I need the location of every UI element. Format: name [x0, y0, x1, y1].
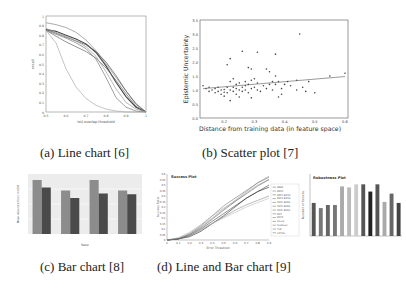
- x-tick-label: 0.6: [233, 241, 238, 245]
- bar: [347, 187, 351, 236]
- legend-entry: MEEF: [277, 186, 284, 189]
- data-point: [278, 96, 280, 98]
- x-tick-label: 0.5: [43, 114, 48, 118]
- y-tick-label: 0.2: [39, 91, 44, 95]
- bar: [42, 188, 51, 235]
- data-point: [232, 86, 234, 88]
- data-point: [220, 89, 222, 91]
- x-tick-label: 0.2: [187, 241, 192, 245]
- bar: [118, 191, 127, 235]
- bar: [340, 186, 344, 236]
- data-point: [229, 100, 231, 102]
- legend: MEEFMRPFDRPF BOOSDRPF BOOSCRPF BOOSCRPF …: [271, 184, 299, 236]
- data-point: [235, 84, 237, 86]
- bar: [361, 184, 365, 236]
- y-tick-label: 0.25: [160, 212, 166, 215]
- x-tick-label: 0.1: [176, 241, 181, 245]
- caption-b: (b) Scatter plot [7]: [202, 145, 298, 161]
- data-point: [284, 84, 286, 86]
- legend-entry: Struck: [277, 220, 285, 223]
- bar: [90, 180, 99, 234]
- data-point: [208, 91, 210, 93]
- bar: [383, 202, 387, 236]
- data-point: [241, 91, 243, 93]
- bar: [354, 184, 358, 236]
- data-point: [257, 51, 259, 53]
- bar: [326, 205, 330, 236]
- data-point: [302, 86, 304, 88]
- y-axis-label: Number of Failures: [301, 190, 305, 219]
- legend-entry: MRPF: [277, 190, 284, 193]
- chart-title: Robustness Plot: [313, 176, 346, 180]
- data-point: [238, 82, 240, 84]
- x-tick-label: 0.8: [103, 114, 108, 118]
- bar: [319, 208, 323, 236]
- data-point: [229, 58, 231, 60]
- caption-a: (a) Line chart [6]: [40, 145, 129, 161]
- x-tick-label: 0.5: [221, 241, 226, 245]
- bar: [61, 191, 70, 235]
- legend-entry: CRPF BOOS: [277, 201, 291, 204]
- data-point: [229, 81, 231, 83]
- data-line: [167, 185, 269, 240]
- data-point: [272, 81, 274, 83]
- x-tick-label: · · ·: [69, 237, 73, 240]
- x-tick-label: 0.6: [342, 120, 348, 124]
- bar: [99, 194, 108, 235]
- bar: [397, 203, 401, 236]
- data-point: [314, 92, 316, 94]
- y-tick-label: 0.6: [161, 173, 165, 176]
- data-point: [245, 89, 247, 91]
- y-tick-label: 0.3: [39, 82, 44, 86]
- x-axis-label: Rater: [81, 243, 90, 247]
- data-point: [251, 79, 253, 81]
- y-tick-label: 0.1: [161, 228, 165, 231]
- data-line: [167, 177, 269, 240]
- data-point: [235, 88, 237, 90]
- legend-entry: LOT/KL: [277, 232, 286, 235]
- legend-entry: MCTF: [277, 216, 284, 219]
- data-point: [214, 88, 216, 90]
- x-tick-label: · · ·: [97, 237, 101, 240]
- data-point: [229, 89, 231, 91]
- y-tick-label: 0.9: [39, 24, 44, 28]
- data-line: [167, 198, 269, 240]
- data-point: [266, 68, 268, 70]
- panel-d-bar-chart: Robustness PlotNumber of Failures: [300, 170, 406, 250]
- data-point: [272, 89, 274, 91]
- y-tick-label: 0.3: [161, 206, 165, 209]
- x-tick-label: 0.9: [123, 114, 128, 118]
- x-tick-label: 0.6: [63, 114, 68, 118]
- data-point: [275, 53, 277, 55]
- data-point: [251, 88, 253, 90]
- data-point: [269, 71, 271, 73]
- data-point: [329, 75, 331, 77]
- data-point: [223, 89, 225, 91]
- y-tick-label: 0.5: [192, 103, 198, 107]
- data-point: [254, 86, 256, 88]
- data-point: [344, 72, 346, 74]
- y-axis-label: Success Ratio: [156, 196, 160, 217]
- data-point: [263, 85, 265, 87]
- data-point: [241, 51, 243, 53]
- y-tick-label: 0.6: [39, 53, 44, 57]
- legend-entry: CRPF BOOS: [277, 205, 291, 208]
- data-point: [220, 93, 222, 95]
- data-point: [275, 75, 277, 77]
- y-tick-label: 0.2: [161, 217, 165, 220]
- bar: [312, 203, 316, 236]
- legend-entry: CRPF BOOS: [277, 209, 291, 212]
- x-tick-label: · · ·: [126, 237, 130, 240]
- data-point: [232, 91, 234, 93]
- legend-entry: TopDown: [277, 224, 288, 227]
- data-point: [299, 33, 301, 35]
- x-tick-label: 0.2: [221, 120, 227, 124]
- bar-chart-c: · · ·· · ·· · ·· · ·RaterMean Absolute E…: [14, 170, 144, 250]
- data-point: [241, 86, 243, 88]
- y-tick-label: 0.15: [160, 223, 166, 226]
- data-point: [251, 97, 253, 99]
- y-axis-label: recall: [31, 59, 35, 69]
- data-point: [308, 81, 310, 83]
- data-point: [202, 85, 204, 87]
- bar: [368, 192, 372, 236]
